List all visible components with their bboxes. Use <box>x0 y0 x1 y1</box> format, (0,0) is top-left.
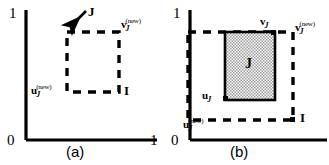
panel-b-caption: (b) <box>230 144 248 159</box>
label-v-J-new: vJ(new) <box>295 21 315 36</box>
corner-dot-v-J <box>271 30 276 35</box>
panel-b: 1 0 J vJ vJ(new) uJ uJ(new) I (b) <box>164 0 329 165</box>
label-v-sub: J <box>126 24 130 33</box>
panel-a: 1 0 1 J vJ(new) uJ(new) I (a) <box>0 0 165 165</box>
label-v-sup: (new) <box>126 17 141 25</box>
label-u-sub: J <box>36 90 40 99</box>
corner-dot-u-J <box>223 96 228 101</box>
y-axis-max-label: 1 <box>9 6 17 21</box>
label-v-J: vJ <box>260 16 269 30</box>
label-J-region: J <box>245 57 252 71</box>
label-uJnew-sup: (new) <box>188 117 203 125</box>
x-axis-max-label: 1 <box>150 133 158 148</box>
label-I: I <box>300 111 305 124</box>
label-I: I <box>124 84 129 97</box>
label-v-J-new: vJ(new) <box>121 18 141 33</box>
label-vJ-sub: J <box>265 21 269 30</box>
label-u-J-new: uJ(new) <box>31 84 51 99</box>
arrow-to-J <box>70 11 86 27</box>
panel-a-caption: (a) <box>66 144 84 159</box>
label-vJnew-sup: (new) <box>300 20 315 28</box>
label-vJnew-sub: J <box>300 27 304 36</box>
label-uJnew-sub: J <box>188 124 192 133</box>
label-u-J: uJ <box>202 90 211 104</box>
corner-dot-I <box>290 117 295 122</box>
label-uJ-sub: J <box>207 95 211 104</box>
origin-label: 0 <box>171 133 179 148</box>
label-u-J-new: uJ(new) <box>183 118 203 133</box>
figure-container: 1 0 1 J vJ(new) uJ(new) I (a) <box>0 0 329 165</box>
label-J-arrow: J <box>88 5 95 18</box>
origin-label: 0 <box>7 133 15 148</box>
dashed-square-J <box>67 32 119 92</box>
y-axis-max-label: 1 <box>173 6 181 21</box>
label-u-sup: (new) <box>36 83 51 91</box>
